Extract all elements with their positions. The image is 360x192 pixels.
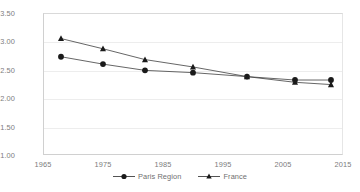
- legend-item-paris-region[interactable]: Paris Region: [113, 172, 182, 181]
- y-axis-tick-label: 2.50: [0, 65, 15, 74]
- chart-legend: Paris Region France: [0, 172, 360, 181]
- x-axis-tick-label: 1975: [83, 160, 123, 169]
- x-axis-tick-label: 2005: [263, 160, 303, 169]
- series-line-france: [61, 39, 331, 85]
- data-point-triangle: [58, 35, 64, 41]
- data-point-circle: [190, 70, 196, 76]
- data-point-circle: [142, 67, 148, 73]
- x-axis-tick-label: 2015: [323, 160, 360, 169]
- y-axis-tick-label: 3.50: [0, 9, 15, 18]
- y-axis-tick-label: 3.00: [0, 37, 15, 46]
- x-axis-tick-label: 1965: [23, 160, 63, 169]
- series-line-paris-region: [61, 57, 331, 80]
- legend-item-france[interactable]: France: [198, 172, 247, 181]
- line-chart: Paris Region France 1.001.502.002.503.00…: [0, 0, 360, 192]
- legend-label-paris-region: Paris Region: [138, 172, 182, 181]
- data-point-circle: [58, 54, 64, 60]
- y-axis-tick-label: 1.00: [0, 151, 15, 160]
- x-axis-tick-label: 1985: [143, 160, 183, 169]
- x-axis-tick-label: 1995: [203, 160, 243, 169]
- legend-label-france: France: [223, 172, 247, 181]
- y-axis-tick-label: 1.50: [0, 122, 15, 131]
- y-axis-tick-label: 2.00: [0, 94, 15, 103]
- circle-marker-icon: [113, 172, 135, 181]
- data-point-circle: [100, 61, 106, 67]
- triangle-marker-icon: [198, 172, 220, 181]
